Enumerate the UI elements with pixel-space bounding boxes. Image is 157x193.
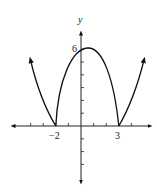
y-axis-label: y <box>77 14 83 25</box>
x-tick-label-neg2: −2 <box>49 130 60 141</box>
curve-middle-hump <box>56 48 119 126</box>
x-tick-label-3: 3 <box>115 130 120 141</box>
y-tick-label-6: 6 <box>72 43 77 54</box>
curve-left-branch <box>31 60 56 126</box>
curve-right-branch <box>119 60 144 126</box>
function-graph: y 6 −2 3 <box>0 0 157 193</box>
